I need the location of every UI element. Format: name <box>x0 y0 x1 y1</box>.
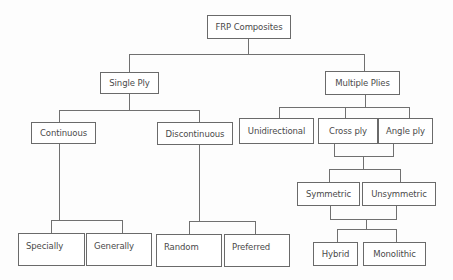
connector <box>409 107 410 118</box>
frp-composites-diagram: FRP Composites Single Ply Multiple Plies… <box>0 0 453 280</box>
connector <box>59 110 200 111</box>
node-angle-ply: Angle ply <box>378 118 433 144</box>
connector <box>329 169 401 170</box>
connector <box>189 221 190 234</box>
node-preferred: Preferred <box>224 234 290 267</box>
connector <box>334 144 335 156</box>
node-continuous: Continuous <box>31 122 96 144</box>
connector <box>199 144 200 221</box>
connector <box>59 143 60 220</box>
connector <box>334 156 394 157</box>
node-random: Random <box>156 234 222 267</box>
connector <box>51 220 52 233</box>
connector <box>365 94 366 107</box>
node-cross-ply: Cross ply <box>318 118 378 144</box>
node-unidirectional: Unidirectional <box>239 118 314 144</box>
node-frp-composites: FRP Composites <box>207 15 291 39</box>
connector <box>396 205 397 219</box>
node-monolithic: Monolithic <box>363 242 426 266</box>
connector <box>122 220 123 233</box>
connector <box>248 38 249 54</box>
connector <box>345 107 346 118</box>
connector <box>366 219 367 229</box>
connector <box>330 219 397 220</box>
connector <box>363 156 364 169</box>
node-multiple-plies: Multiple Plies <box>325 71 400 95</box>
connector <box>364 54 365 71</box>
connector <box>329 169 330 182</box>
connector <box>337 229 338 242</box>
connector <box>393 144 394 156</box>
node-symmetric: Symmetric <box>297 182 360 206</box>
connector <box>51 220 123 221</box>
connector <box>189 221 256 222</box>
node-generally: Generally <box>86 233 152 266</box>
connector <box>129 54 365 55</box>
connector <box>279 107 280 118</box>
connector <box>400 169 401 182</box>
connector <box>129 54 130 73</box>
node-unsymmetric: Unsymmetric <box>362 182 436 206</box>
connector <box>337 229 397 230</box>
connector <box>255 221 256 234</box>
connector <box>59 110 60 122</box>
connector <box>330 205 331 219</box>
node-single-ply: Single Ply <box>100 72 159 94</box>
connector <box>396 229 397 242</box>
connector <box>129 93 130 110</box>
node-discontinuous: Discontinuous <box>157 122 233 145</box>
node-hybrid: Hybrid <box>313 242 358 266</box>
node-specially: Specially <box>18 233 85 266</box>
